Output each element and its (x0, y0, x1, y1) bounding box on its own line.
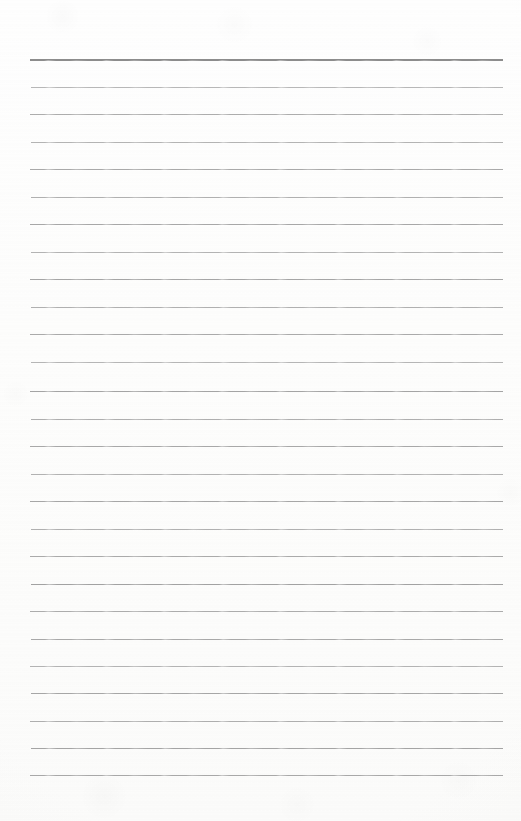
rule-line (30, 279, 503, 280)
rule-line (30, 114, 503, 115)
rule-line (31, 87, 503, 88)
rule-line (31, 639, 503, 640)
rule-line (30, 391, 503, 392)
header-rule-line (30, 59, 503, 61)
rule-line (30, 169, 503, 170)
rule-line (30, 334, 503, 335)
rule-line (30, 224, 503, 225)
rule-line (31, 362, 503, 363)
rule-line (30, 775, 503, 776)
rule-line (31, 142, 503, 143)
rule-line (30, 611, 503, 612)
rule-line (31, 584, 503, 585)
rule-line (30, 446, 503, 447)
rule-line (31, 252, 503, 253)
notebook-page (0, 0, 521, 821)
rule-line (30, 721, 503, 722)
rule-line (31, 748, 503, 749)
rule-line (31, 474, 503, 475)
rule-line (30, 556, 503, 557)
rule-line (31, 197, 503, 198)
rule-line (31, 419, 503, 420)
rule-line (31, 307, 503, 308)
rule-line (31, 529, 503, 530)
rule-line (30, 666, 503, 667)
ruled-writing-area[interactable] (0, 0, 521, 821)
rule-line (31, 693, 503, 694)
rule-line (30, 501, 503, 502)
